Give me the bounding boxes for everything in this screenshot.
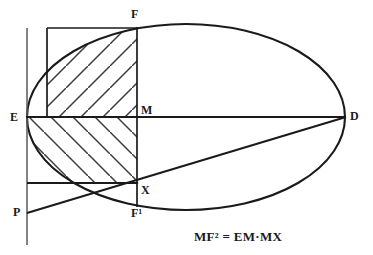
vertex-label-F: F — [131, 8, 139, 20]
vertex-label-P: P — [13, 206, 21, 218]
point-marker-X — [136, 182, 139, 185]
vertex-label-X: X — [141, 184, 150, 196]
point-marker-M — [136, 116, 139, 119]
geometry-canvas — [0, 0, 373, 255]
hatched-region-upper-square — [40, 20, 150, 130]
geometry-figure: E D F M X F¹ P MF² = EM·MX — [0, 0, 373, 255]
vertex-label-M: M — [141, 104, 153, 116]
vertex-label-D: D — [350, 110, 359, 122]
formula-caption: MF² = EM·MX — [194, 230, 282, 243]
vertex-label-E: E — [10, 111, 18, 123]
vertex-label-f-prime: F¹ — [131, 207, 142, 219]
